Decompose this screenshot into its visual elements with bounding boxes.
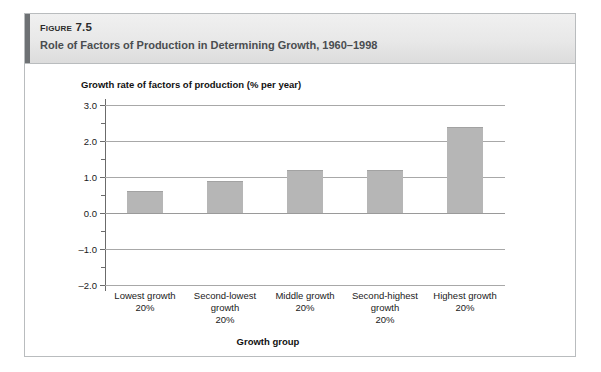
x-axis-category-label: Lowest growth20% xyxy=(105,290,185,326)
header-accent-bar xyxy=(25,14,30,63)
y-axis-tick-label: 3.0 xyxy=(63,100,97,111)
y-axis-tick xyxy=(100,249,105,250)
x-axis-label-line: 20% xyxy=(105,302,185,314)
x-axis-category-label: Second-highestgrowth20% xyxy=(345,290,425,326)
x-axis-label-line: Second-highest xyxy=(345,290,425,302)
x-axis-label-line: 20% xyxy=(345,314,425,326)
y-axis-tick xyxy=(100,141,105,142)
figure-title: Role of Factors of Production in Determi… xyxy=(40,38,575,52)
gridline xyxy=(105,105,505,106)
x-axis-title: Growth group xyxy=(25,336,575,347)
y-axis-tick xyxy=(100,177,105,178)
bar xyxy=(447,127,483,213)
y-axis-tick-label: 1.0 xyxy=(63,172,97,183)
y-axis-minor-tick xyxy=(101,195,105,196)
y-axis-minor-tick xyxy=(101,267,105,268)
x-axis-category-label: Second-lowestgrowth20% xyxy=(185,290,265,326)
figure-number: Figure 7.5 xyxy=(40,20,575,34)
bar xyxy=(367,170,403,213)
bar xyxy=(207,181,243,213)
x-axis-label-line: 20% xyxy=(425,302,505,314)
figure-container: Figure 7.5 Role of Factors of Production… xyxy=(24,13,576,357)
x-axis-label-line: Highest growth xyxy=(425,290,505,302)
x-axis-label-line: Lowest growth xyxy=(105,290,185,302)
x-axis-label-line: growth xyxy=(185,302,265,314)
y-axis-minor-tick xyxy=(101,231,105,232)
x-axis-label-line: 20% xyxy=(265,302,345,314)
y-axis-title: Growth rate of factors of production (% … xyxy=(81,79,301,90)
gridline xyxy=(105,213,505,214)
x-axis-category-label: Highest growth20% xyxy=(425,290,505,326)
y-axis-line xyxy=(105,99,106,291)
gridline xyxy=(105,285,505,286)
x-axis-label-line: 20% xyxy=(185,314,265,326)
figure-header-text: Figure 7.5 Role of Factors of Production… xyxy=(25,14,575,52)
bar xyxy=(287,170,323,213)
gridline xyxy=(105,141,505,142)
y-axis-tick xyxy=(100,213,105,214)
y-axis-minor-tick xyxy=(101,159,105,160)
y-axis-tick-label: –2.0 xyxy=(63,280,97,291)
y-axis-minor-tick xyxy=(101,123,105,124)
y-axis-tick xyxy=(100,285,105,286)
x-axis-category-label: Middle growth20% xyxy=(265,290,345,326)
x-axis-label-line: growth xyxy=(345,302,425,314)
chart-canvas: 3.02.01.00.0–1.0–2.0 xyxy=(105,105,505,285)
y-axis-tick-label: –1.0 xyxy=(63,244,97,255)
y-axis-tick-label: 0.0 xyxy=(63,208,97,219)
x-axis-category-labels: Lowest growth20%Second-lowestgrowth20%Mi… xyxy=(105,290,505,326)
y-axis-tick-label: 2.0 xyxy=(63,136,97,147)
x-axis-label-line: Middle growth xyxy=(265,290,345,302)
figure-header: Figure 7.5 Role of Factors of Production… xyxy=(25,14,575,64)
x-axis-label-line: Second-lowest xyxy=(185,290,265,302)
y-axis-tick xyxy=(100,105,105,106)
chart-plot-area: Growth rate of factors of production (% … xyxy=(25,64,575,356)
bar xyxy=(127,191,163,213)
gridline xyxy=(105,249,505,250)
